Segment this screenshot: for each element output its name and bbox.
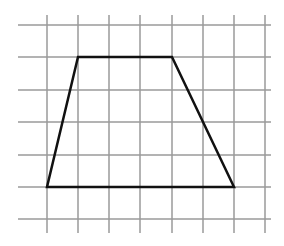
diagram-canvas (0, 0, 284, 246)
grid (18, 15, 271, 233)
